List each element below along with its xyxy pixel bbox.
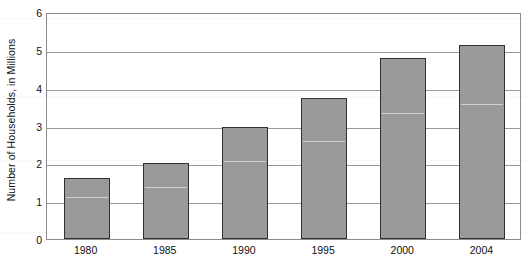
x-axis-tick-labels: 198019851990199520002004 — [46, 243, 521, 263]
bar-chart: Number of Households, in Millions 012345… — [0, 0, 530, 269]
bar-slot — [364, 14, 443, 239]
x-tick-label: 1995 — [311, 243, 334, 257]
y-axis-title: Number of Households, in Millions — [0, 0, 22, 240]
y-tick-label: 3 — [22, 122, 42, 132]
bar-slot — [126, 14, 205, 239]
y-axis-title-text: Number of Households, in Millions — [5, 39, 17, 202]
y-tick-label: 2 — [22, 159, 42, 169]
y-axis-tick-labels: 0123456 — [22, 0, 42, 269]
y-tick-label: 0 — [22, 235, 42, 245]
bar-slot — [205, 14, 284, 239]
x-tick-label: 2004 — [470, 243, 493, 257]
bar-scanline — [303, 141, 345, 142]
bar-scanline — [66, 197, 108, 198]
y-tick-label: 6 — [22, 8, 42, 18]
bar-slot — [443, 14, 522, 239]
bar[interactable] — [301, 98, 347, 239]
bar[interactable] — [143, 163, 189, 239]
bar[interactable] — [380, 58, 426, 239]
plot-area — [46, 13, 521, 240]
bar[interactable] — [459, 45, 505, 239]
bar-scanline — [382, 113, 424, 114]
bar-scanline — [224, 161, 266, 162]
bar[interactable] — [222, 127, 268, 239]
x-tick-label: 1990 — [232, 243, 255, 257]
bar-slot — [285, 14, 364, 239]
bar-scanline — [461, 104, 503, 105]
bar-scanline — [145, 187, 187, 188]
bar[interactable] — [64, 178, 110, 239]
y-tick-label: 1 — [22, 197, 42, 207]
bars-layer — [47, 14, 520, 239]
y-tick-label: 5 — [22, 46, 42, 56]
y-tick-label: 4 — [22, 84, 42, 94]
x-tick-label: 1980 — [74, 243, 97, 257]
bar-slot — [47, 14, 126, 239]
x-tick-label: 2000 — [391, 243, 414, 257]
x-tick-label: 1985 — [153, 243, 176, 257]
